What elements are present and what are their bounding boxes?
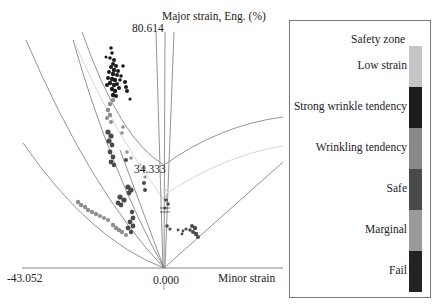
legend-title: Safety zone [351,33,405,45]
curve-lower-left [23,143,164,268]
curve-outer-left [26,40,164,268]
line-plane-strain-left [156,32,163,268]
y-max-label: 80.614 [132,22,164,34]
legend-label: Fail [389,264,407,276]
curve-low-strain [75,44,164,200]
legend: Safety zone Low strain Strong wrinkle te… [289,20,431,298]
legend-item-wrinkling: Wrinkling tendency [290,128,432,169]
legend-label: Marginal [365,223,407,235]
x-min-label: -43.052 [7,272,42,284]
y-axis-title: Major strain, Eng. (%) [162,10,266,22]
x-zero-label: 0.000 [153,274,179,286]
legend-label: Safe [387,182,407,194]
legend-swatch [409,128,422,169]
legend-item-fail: Fail [290,251,432,292]
curve-forming-limit-right [164,117,283,165]
legend-item-strong-wrinkle: Strong wrinkle tendency [290,87,432,128]
legend-item-safe: Safe [290,169,432,210]
forming-limit-diagram: Major strain, Eng. (%) 80.614 34.333 -43… [0,0,290,308]
line-plane-strain-center [164,32,165,268]
curve-forming-limit-left [82,32,164,165]
legend-swatch [409,251,422,292]
line-equibiaxial [164,162,283,268]
legend-swatch [409,210,422,251]
legend-swatch [409,46,422,87]
legend-item-marginal: Marginal [290,210,432,251]
legend-swatch [409,169,422,210]
series-strong-wrinkle [105,46,132,100]
y-mid-label: 34.333 [134,163,166,175]
line-plane-strain-right [165,32,174,268]
legend-label: Strong wrinkle tendency [294,100,407,112]
legend-label: Low strain [357,59,407,71]
legend-item-low-strain: Low strain [290,46,432,87]
plot-area [0,0,290,308]
legend-label: Wrinkling tendency [316,141,407,153]
legend-swatch [409,87,422,128]
x-axis-title: Minor strain [218,272,275,284]
